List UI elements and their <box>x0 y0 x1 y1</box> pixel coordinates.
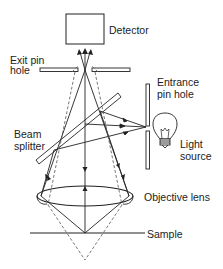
illumination-rays <box>54 111 146 150</box>
exit-pinhole-right-bar <box>92 68 130 72</box>
sample-label: Sample <box>147 228 183 240</box>
objective-lens-label: Objective lens <box>144 191 210 203</box>
focusing-rays <box>41 52 129 233</box>
entrance-pinhole-top-bar <box>146 84 150 126</box>
light-source-label-line2: source <box>180 150 212 162</box>
detector-box <box>66 14 104 44</box>
beam-splitter-label-line2: splitter <box>14 140 45 152</box>
exit-pinhole-left-bar <box>40 68 78 72</box>
detector-label: Detector <box>109 24 149 36</box>
entrance-pinhole-label-line1: Entrance <box>157 76 199 88</box>
beam-splitter-label-line1: Beam <box>14 128 41 140</box>
beam-splitter <box>36 93 121 164</box>
exit-pinhole-label-line2: hole <box>10 64 30 76</box>
entrance-pinhole-bottom-bar <box>146 131 150 169</box>
entrance-pinhole-label-line2: pin hole <box>157 88 194 100</box>
light-source-label-line1: Light <box>180 138 203 150</box>
light-bulb-icon <box>153 113 177 148</box>
